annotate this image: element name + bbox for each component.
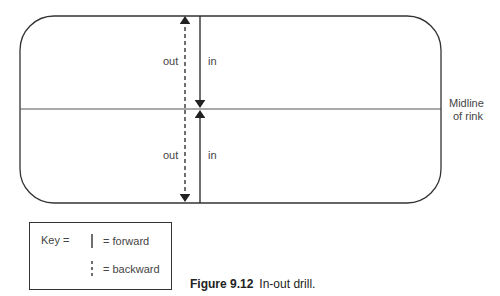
label-midline-1: Midline [449,97,484,109]
figure-title: In-out drill. [259,277,315,291]
legend-box [29,222,172,290]
legend-backward-label: = backward [103,263,160,275]
legend-forward-label: = forward [103,235,149,247]
label-out-bottom: out [163,149,178,161]
label-midline-2: of rink [453,110,483,122]
figure-number: Figure 9.12 [190,277,253,291]
label-in-top: in [208,55,217,67]
label-in-bottom: in [208,149,217,161]
legend-title: Key = [41,234,69,246]
figure-caption: Figure 9.12In-out drill. [190,277,315,291]
label-out-top: out [163,55,178,67]
